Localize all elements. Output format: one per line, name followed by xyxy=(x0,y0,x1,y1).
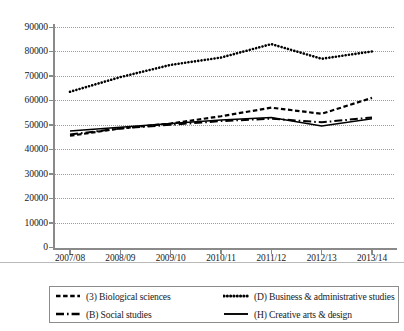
y-tick-label: 30000 xyxy=(0,169,48,179)
legend-label: (3) Biological sciences xyxy=(86,291,170,302)
gridline xyxy=(55,198,394,199)
legend-swatch-dash-dot-icon xyxy=(55,309,81,319)
gridline xyxy=(55,51,394,52)
legend-item[interactable]: (D) Business & administrative studies xyxy=(223,291,404,302)
gridline xyxy=(55,174,394,175)
y-axis-line xyxy=(53,24,55,250)
y-tick-label: 10000 xyxy=(0,218,48,228)
legend-swatch-solid-icon xyxy=(223,309,249,319)
y-tick-label: 70000 xyxy=(0,71,48,81)
legend-label: (B) Social studies xyxy=(86,309,152,320)
plot-area xyxy=(54,27,394,247)
legend-item[interactable]: (3) Biological sciences xyxy=(55,291,223,302)
y-tick-label: 60000 xyxy=(0,95,48,105)
legend-item[interactable]: (H) Creative arts & design xyxy=(223,309,404,320)
gridline xyxy=(55,149,394,150)
y-tick-label: 40000 xyxy=(0,144,48,154)
y-tick-label: 80000 xyxy=(0,46,48,56)
legend-label: (H) Creative arts & design xyxy=(254,309,352,320)
legend: (3) Biological sciences(D) Business & ad… xyxy=(49,286,399,323)
legend-swatch-dotted-icon xyxy=(223,291,249,301)
gridline xyxy=(55,27,394,28)
gridline xyxy=(55,223,394,224)
y-tick-label: 90000 xyxy=(0,22,48,32)
legend-label: (D) Business & administrative studies xyxy=(254,291,394,302)
gridline xyxy=(55,125,394,126)
gridline xyxy=(55,76,394,77)
y-tick-label: 0 xyxy=(0,242,48,252)
y-tick-label: 50000 xyxy=(0,120,48,130)
legend-item[interactable]: (B) Social studies xyxy=(55,309,223,320)
y-tick-label: 20000 xyxy=(0,193,48,203)
horizontal-divider xyxy=(0,262,404,263)
chart-root: 0100002000030000400005000060000700008000… xyxy=(0,0,404,331)
x-axis-line xyxy=(53,248,397,250)
legend-swatch-dashed-icon xyxy=(55,291,81,301)
gridline xyxy=(55,100,394,101)
